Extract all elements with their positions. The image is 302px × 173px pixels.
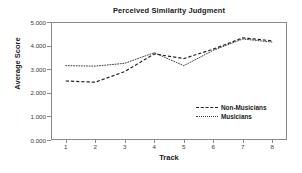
chart-title: Perceived Similarity Judgment [51,6,287,16]
x-tick-mark [125,140,126,143]
chart-figure: Perceived Similarity Judgment Average Sc… [0,0,302,173]
x-tick-mark [154,140,155,143]
legend-line-swatch-icon [196,116,218,118]
y-tick-mark [47,93,51,94]
chart-legend: Non-MusiciansMusicians [196,103,284,121]
series-line [66,38,273,82]
y-tick-mark [47,140,51,141]
y-tick-label: 0.000 [20,137,46,144]
x-tick-mark [213,140,214,143]
legend-label: Non-Musicians [221,104,266,112]
y-tick-mark [47,116,51,117]
y-tick-label: 1.000 [20,113,46,120]
x-tick-mark [184,140,185,143]
y-tick-label: 5.000 [20,19,46,26]
x-tick-label: 3 [117,143,133,151]
legend-label: Musicians [221,113,252,121]
x-axis-tick-labels: 12345678 [51,143,287,153]
y-tick-label: 3.000 [20,66,46,73]
x-tick-label: 8 [264,143,280,151]
plot-series-layer [51,22,287,140]
x-tick-label: 2 [87,143,103,151]
y-tick-label: 2.000 [20,89,46,96]
x-tick-mark [95,140,96,143]
x-tick-mark [272,140,273,143]
y-tick-mark [47,69,51,70]
x-axis-title: Track [51,153,287,162]
x-tick-label: 7 [235,143,251,151]
legend-item[interactable]: Non-Musicians [196,103,284,112]
y-tick-label: 4.000 [20,42,46,49]
legend-item[interactable]: Musicians [196,112,284,121]
x-tick-mark [66,140,67,143]
x-tick-label: 4 [146,143,162,151]
series-line [66,39,273,66]
y-tick-mark [47,22,51,23]
x-tick-label: 6 [205,143,221,151]
x-tick-label: 1 [58,143,74,151]
legend-line-swatch-icon [196,107,218,109]
y-tick-mark [47,46,51,47]
y-axis-tick-labels: 0.0001.0002.0003.0004.0005.000 [18,22,46,140]
x-tick-mark [243,140,244,143]
x-tick-label: 5 [176,143,192,151]
